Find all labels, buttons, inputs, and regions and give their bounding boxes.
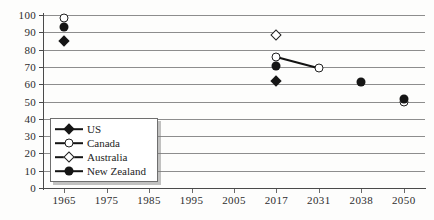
legend-item-canada[interactable]: Canada (54, 136, 153, 150)
x-axis-tick (149, 189, 150, 193)
x-axis-label: 1975 (95, 194, 119, 206)
y-axis-tick (39, 67, 43, 68)
y-axis-tick (39, 119, 43, 120)
x-axis-label: 2005 (222, 194, 246, 206)
gridline (43, 67, 425, 68)
y-axis-label: 80 (24, 44, 36, 56)
y-axis-label: 10 (24, 165, 36, 177)
x-axis-tick (361, 189, 362, 193)
gridline (43, 84, 425, 85)
data-point-new-zealand (60, 23, 69, 32)
y-axis-label: 50 (24, 96, 36, 108)
data-point-canada (314, 63, 323, 72)
y-axis-line (43, 13, 44, 190)
y-axis-tick (39, 32, 43, 33)
data-point-new-zealand (399, 94, 408, 103)
y-axis-tick (39, 50, 43, 51)
legend-swatch-open-circle-icon (54, 137, 84, 149)
y-axis-tick (39, 188, 43, 189)
gridline (43, 50, 425, 51)
y-axis-tick (39, 171, 43, 172)
legend-label: US (84, 123, 101, 136)
gridline (43, 15, 425, 16)
y-axis-label: 40 (24, 113, 36, 125)
legend-label: Canada (84, 137, 120, 150)
legend-item-new-zealand[interactable]: New Zealand (54, 164, 153, 178)
chart-container: 0102030405060708090100 19651975198519952… (0, 0, 434, 220)
x-axis-tick (276, 189, 277, 193)
x-axis-label: 1965 (52, 194, 76, 206)
y-axis-label: 100 (19, 9, 36, 21)
x-axis-tick (64, 189, 65, 193)
legend-swatch-filled-circle-icon (54, 165, 84, 177)
x-axis-label: 1995 (180, 194, 204, 206)
x-axis-label: 1985 (137, 194, 161, 206)
y-axis-tick (39, 153, 43, 154)
data-point-canada (272, 52, 281, 61)
y-axis-label: 20 (24, 147, 36, 159)
y-axis-tick (39, 102, 43, 103)
x-axis-tick (319, 189, 320, 193)
legend-item-australia[interactable]: Australia (54, 150, 153, 164)
data-point-new-zealand (357, 78, 366, 87)
x-axis-tick (107, 189, 108, 193)
y-axis-tick (39, 136, 43, 137)
data-point-new-zealand (272, 62, 281, 71)
legend-swatch-open-diamond-icon (54, 151, 84, 163)
gridline (43, 32, 425, 33)
x-axis-label: 2038 (350, 194, 374, 206)
legend-label: Australia (84, 151, 127, 164)
y-axis-tick (39, 84, 43, 85)
chart-legend: USCanadaAustraliaNew Zealand (50, 118, 158, 182)
y-axis-label: 30 (24, 130, 36, 142)
x-axis-label: 2017 (265, 194, 289, 206)
x-axis-label: 2031 (307, 194, 331, 206)
x-axis-tick (404, 189, 405, 193)
data-point-australia (271, 29, 282, 40)
y-axis-label: 90 (24, 26, 36, 38)
y-axis-label: 70 (24, 61, 36, 73)
x-axis-tick (234, 189, 235, 193)
x-axis-label: 2050 (392, 194, 416, 206)
data-point-canada (60, 14, 69, 23)
legend-item-us[interactable]: US (54, 122, 153, 136)
y-axis-label: 0 (30, 182, 36, 194)
gridline (43, 102, 425, 103)
legend-label: New Zealand (84, 165, 146, 178)
data-point-us (59, 35, 70, 46)
y-axis-tick (39, 15, 43, 16)
x-axis-tick (192, 189, 193, 193)
legend-swatch-filled-diamond-icon (54, 123, 84, 135)
y-axis-label: 60 (24, 78, 36, 90)
